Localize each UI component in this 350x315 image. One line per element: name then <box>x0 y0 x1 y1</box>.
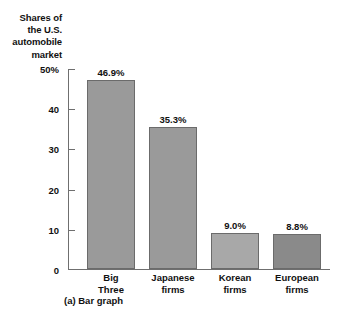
category-label-line: firms <box>263 284 331 296</box>
category-label-line: Korean <box>201 272 269 284</box>
chart-title-line-4: market <box>6 49 62 61</box>
category-label-line: Big <box>77 272 145 284</box>
bar-european-firms: 8.8% <box>273 234 321 269</box>
category-label-line: European <box>263 272 331 284</box>
bar-korean-firms: 9.0% <box>211 233 259 269</box>
chart-title-line-1: Shares of <box>6 12 62 24</box>
category-label-line: firms <box>201 284 269 296</box>
category-label-line: Japanese <box>139 272 207 284</box>
category-label-korean-firms: Koreanfirms <box>201 272 269 295</box>
category-label-european-firms: Europeanfirms <box>263 272 331 295</box>
bars-layer: 46.9%35.3%9.0%8.8% <box>68 60 336 270</box>
category-label-line: firms <box>139 284 207 296</box>
category-label-japanese-firms: Japanesefirms <box>139 272 207 295</box>
chart-title: Shares of the U.S. automobile market <box>6 12 62 61</box>
figure-caption: (a) Bar graph <box>64 295 123 306</box>
y-tick-label: 0 <box>54 265 59 276</box>
y-tick-label: 30 <box>48 144 59 155</box>
bar-value-label: 8.8% <box>286 221 308 232</box>
bar-value-label: 46.9% <box>98 67 125 78</box>
y-tick-label: 40 <box>48 104 59 115</box>
chart-title-line-3: automobile <box>6 36 62 48</box>
chart-title-line-2: the U.S. <box>6 24 62 36</box>
y-tick-label: 10 <box>48 224 59 235</box>
category-label-line: Three <box>77 284 145 296</box>
bar-value-label: 35.3% <box>160 114 187 125</box>
bar-japanese-firms: 35.3% <box>149 127 197 269</box>
bar-chart-figure: Shares of the U.S. automobile market 50%… <box>0 0 350 315</box>
y-tick-label: 50% <box>40 64 59 75</box>
bar-big-three: 46.9% <box>87 80 135 269</box>
category-label-big-three: BigThree <box>77 272 145 295</box>
bar-value-label: 9.0% <box>224 220 246 231</box>
plot-area: 50%403020100 46.9%35.3%9.0%8.8% <box>68 60 336 270</box>
y-tick-label: 20 <box>48 184 59 195</box>
